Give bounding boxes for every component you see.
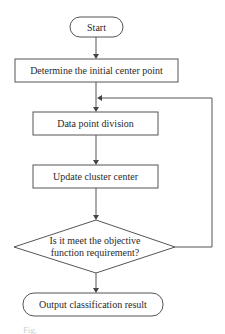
divide-node: Data point division (33, 112, 158, 135)
flowchart: Start Determine the initial center point… (0, 0, 225, 334)
arrow-head-icon (93, 54, 99, 59)
check-node: Is it meet the objective function requir… (14, 220, 175, 273)
update-node: Update cluster center (33, 165, 158, 188)
start-node: Start (70, 17, 123, 37)
update-label: Update cluster center (53, 171, 139, 182)
arrow-head-icon (93, 107, 99, 112)
arrow-head-icon (93, 160, 99, 165)
check-label-line1: Is it meet the objective (49, 235, 141, 246)
figure-caption: Fig. (23, 325, 37, 334)
start-label: Start (87, 22, 106, 33)
arrow-head-icon (93, 215, 99, 220)
arrow-head-icon (97, 95, 102, 101)
init-label: Determine the initial center point (30, 65, 163, 76)
init-node: Determine the initial center point (15, 59, 178, 82)
arrow-head-icon (93, 288, 99, 293)
check-label-line2: function requirement? (51, 247, 140, 258)
output-node: Output classification result (23, 293, 163, 316)
output-label: Output classification result (39, 299, 147, 310)
divide-label: Data point division (57, 118, 134, 129)
